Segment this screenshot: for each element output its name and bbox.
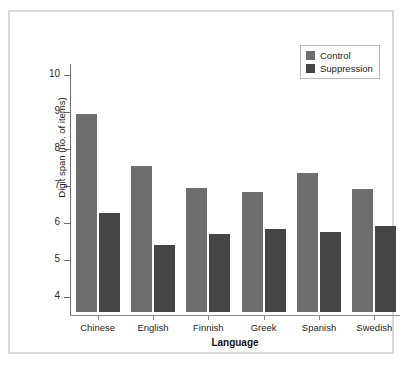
legend-item-suppression: Suppression bbox=[306, 62, 373, 75]
bar-finnish-suppression bbox=[209, 234, 230, 312]
plot-area bbox=[70, 60, 402, 312]
x-axis-spine bbox=[70, 315, 400, 316]
bar-spanish-control bbox=[297, 173, 318, 312]
bar-finnish-control bbox=[186, 188, 207, 312]
bar-english-suppression bbox=[154, 245, 175, 312]
bar-spanish-suppression bbox=[320, 232, 341, 312]
bar-english-control bbox=[131, 166, 152, 312]
chart-legend: Control Suppression bbox=[300, 45, 380, 79]
legend-label-control: Control bbox=[320, 50, 351, 61]
legend-swatch-suppression-icon bbox=[306, 64, 315, 73]
x-tick-label-swedish: Swedish bbox=[356, 322, 392, 333]
bar-swedish-control bbox=[352, 189, 373, 312]
x-tick-label-finnish: Finnish bbox=[193, 322, 224, 333]
x-tick-label-spanish: Spanish bbox=[302, 322, 336, 333]
x-tick-finnish bbox=[208, 315, 209, 320]
legend-swatch-control-icon bbox=[306, 51, 315, 60]
x-tick-label-english: English bbox=[137, 322, 168, 333]
x-tick-label-chinese: Chinese bbox=[80, 322, 115, 333]
figure-frame: 45678910 ChineseEnglishFinnishGreekSpani… bbox=[8, 10, 394, 354]
y-tick-label: 5 bbox=[54, 253, 60, 264]
legend-item-control: Control bbox=[306, 49, 373, 62]
bar-greek-suppression bbox=[265, 229, 286, 312]
x-tick-chinese bbox=[98, 315, 99, 320]
y-axis-title: Digit span (no. of items) bbox=[56, 53, 67, 243]
x-tick-greek bbox=[264, 315, 265, 320]
x-tick-swedish bbox=[374, 315, 375, 320]
x-axis-title: Language bbox=[70, 337, 400, 348]
x-tick-english bbox=[153, 315, 154, 320]
y-tick-label: 4 bbox=[54, 290, 60, 301]
bar-chinese-suppression bbox=[99, 213, 120, 312]
x-tick-label-greek: Greek bbox=[251, 322, 277, 333]
bar-swedish-suppression bbox=[375, 226, 396, 312]
legend-label-suppression: Suppression bbox=[320, 63, 373, 74]
bar-chinese-control bbox=[76, 114, 97, 312]
bar-greek-control bbox=[242, 192, 263, 312]
x-tick-spanish bbox=[319, 315, 320, 320]
